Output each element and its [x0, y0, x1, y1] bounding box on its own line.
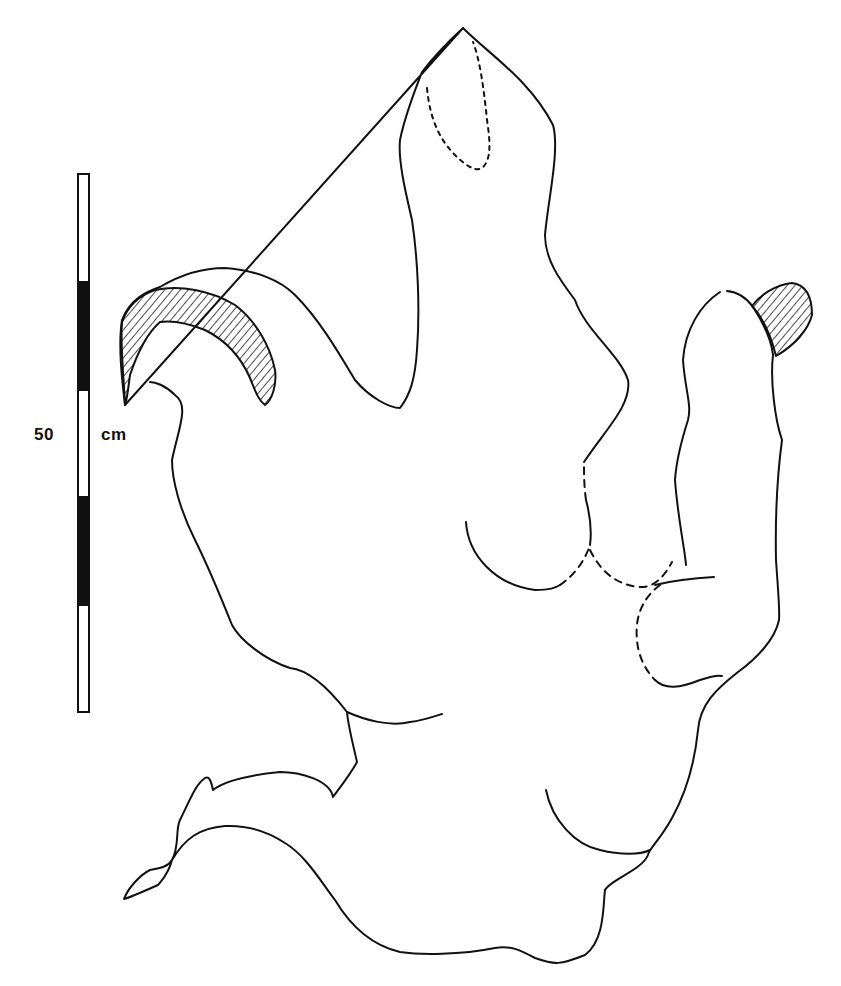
right-pad-dashed-loop: [637, 585, 660, 680]
right-claw: [752, 283, 812, 356]
right-pad-bottom: [655, 676, 722, 687]
scale-segment-1: [78, 174, 89, 282]
scale-segment-5: [78, 605, 89, 712]
scale-unit-label: cm: [101, 425, 127, 445]
central-pad-top-dashed: [584, 462, 586, 500]
central-pad-arc: [466, 522, 560, 590]
heel-crease: [347, 712, 442, 724]
scale-bar: [78, 174, 89, 712]
left-claw: [121, 288, 275, 405]
scale-segment-3: [78, 390, 89, 497]
right-pad-top-line: [655, 577, 714, 585]
scale-segment-2: [78, 282, 89, 390]
lower-pad-arc: [546, 790, 650, 854]
tall-digit-tip-outline: [427, 42, 489, 169]
central-pad-dashed-arc: [560, 545, 590, 585]
scale-segment-4: [78, 497, 89, 605]
scale-value-label: 50: [34, 425, 54, 445]
right-digit-inner-edge: [675, 480, 686, 565]
footprint-outline: [120, 28, 782, 963]
central-pad-right-edge: [586, 500, 591, 545]
interpad-dashed-curve: [590, 550, 672, 587]
footprint-drawing: [0, 0, 841, 986]
